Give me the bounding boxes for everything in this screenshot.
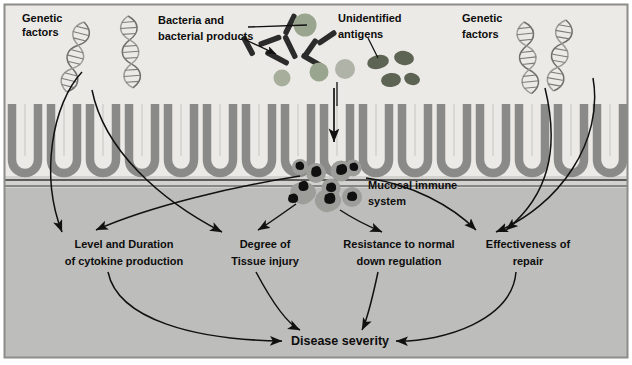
immune-cell-nucleus [347, 191, 357, 201]
mucosal-line2: system [368, 195, 406, 207]
antigens-line1: Unidentified [338, 12, 402, 24]
immune-cell-nucleus [326, 182, 336, 192]
cytokine-line2: of cytokine production [65, 255, 184, 267]
disease-severity-text: Disease severity [291, 334, 389, 348]
figure-body: Genetic factors Bacteria and bacterial p… [4, 4, 628, 358]
antigen-particle [274, 70, 291, 87]
immune-cell-nucleus [311, 166, 321, 177]
antigen-particle [310, 63, 329, 82]
repair-line2: repair [513, 255, 544, 267]
tissue-injury-line2: Tissue injury [231, 255, 300, 267]
figure-canvas: Genetic factors Bacteria and bacterial p… [0, 0, 632, 365]
genetic-factors-left-line1: Genetic [22, 12, 62, 24]
lamina-propria-background [4, 186, 628, 358]
down-regulation-line2: down regulation [357, 255, 442, 267]
repair-line1: Effectiveness of [486, 238, 571, 250]
label-disease-severity: Disease severity [291, 334, 389, 348]
cytokine-line1: Level and Duration [74, 238, 173, 250]
antigens-line2: antigens [338, 28, 383, 40]
bacteria-line2: bacterial products [158, 30, 253, 42]
down-regulation-line1: Resistance to normal [343, 238, 454, 250]
antigen-particle [335, 59, 355, 79]
immune-cell-nucleus [288, 193, 298, 203]
bacteria-line1: Bacteria and [158, 14, 224, 26]
diagram-svg: Genetic factors Bacteria and bacterial p… [0, 0, 632, 365]
genetic-factors-right-line2: factors [462, 28, 499, 40]
tissue-injury-line1: Degree of [240, 238, 291, 250]
genetic-factors-right-line1: Genetic [462, 12, 502, 24]
mucosal-line1: Mucosal immune [368, 179, 457, 191]
genetic-factors-left-line2: factors [22, 26, 59, 38]
